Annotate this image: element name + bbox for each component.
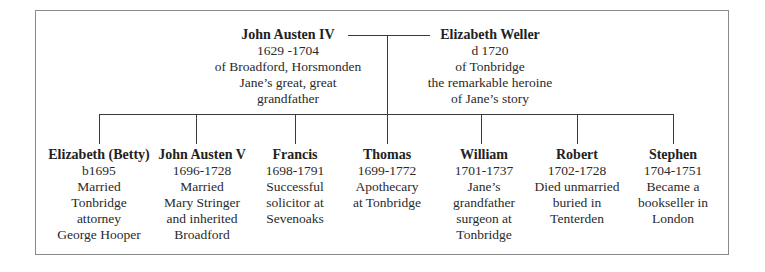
person-name: Thomas bbox=[353, 147, 421, 163]
person-detail: Successful bbox=[266, 179, 325, 195]
person-detail: George Hooper bbox=[48, 227, 149, 243]
person-detail: grandfather bbox=[215, 91, 362, 107]
person-detail: of Tonbridge bbox=[428, 59, 552, 75]
person-name: Francis bbox=[266, 147, 325, 163]
person-detail: grandfather bbox=[453, 195, 515, 211]
child-node-francis: Francis 1698-1791 Successful solicitor a… bbox=[266, 147, 325, 227]
child-node-john-austen-v: John Austen V 1696-1728 Married Mary Str… bbox=[158, 147, 246, 243]
person-detail: attorney bbox=[48, 211, 149, 227]
person-detail: surgeon at bbox=[453, 211, 515, 227]
person-detail: b1695 bbox=[48, 163, 149, 179]
person-detail: Jane’s bbox=[453, 179, 515, 195]
person-detail: bookseller in bbox=[638, 195, 708, 211]
person-detail: d 1720 bbox=[428, 43, 552, 59]
child-drop-line bbox=[387, 114, 388, 144]
person-detail: Mary Stringer bbox=[158, 195, 246, 211]
person-detail: the remarkable heroine bbox=[428, 75, 552, 91]
person-name: Elizabeth Weller bbox=[428, 27, 552, 43]
child-drop-line bbox=[295, 114, 296, 144]
person-detail: 1699-1772 bbox=[353, 163, 421, 179]
person-name: John Austen IV bbox=[215, 27, 362, 43]
parent-node-father: John Austen IV 1629 -1704 of Broadford, … bbox=[215, 27, 362, 107]
person-detail: Became a bbox=[638, 179, 708, 195]
person-detail: buried in bbox=[534, 195, 619, 211]
person-detail: Tenterden bbox=[534, 211, 619, 227]
person-detail: of Broadford, Horsmonden bbox=[215, 59, 362, 75]
person-detail: Sevenoaks bbox=[266, 211, 325, 227]
child-drop-line bbox=[196, 114, 197, 144]
person-detail: of Jane’s story bbox=[428, 91, 552, 107]
parent-node-mother: Elizabeth Weller d 1720 of Tonbridge the… bbox=[428, 27, 552, 107]
child-node-betty: Elizabeth (Betty) b1695 Married Tonbridg… bbox=[48, 147, 149, 243]
person-name: Robert bbox=[534, 147, 619, 163]
person-detail: 1629 -1704 bbox=[215, 43, 362, 59]
person-detail: Married bbox=[48, 179, 149, 195]
person-detail: 1702-1728 bbox=[534, 163, 619, 179]
person-detail: London bbox=[638, 211, 708, 227]
descent-trunk-line bbox=[387, 35, 388, 115]
person-name: Stephen bbox=[638, 147, 708, 163]
child-drop-line bbox=[99, 114, 100, 144]
child-node-stephen: Stephen 1704-1751 Became a bookseller in… bbox=[638, 147, 708, 227]
person-name: John Austen V bbox=[158, 147, 246, 163]
child-drop-line bbox=[673, 114, 674, 144]
person-detail: 1701-1737 bbox=[453, 163, 515, 179]
person-detail: Died unmarried bbox=[534, 179, 619, 195]
person-detail: Broadford bbox=[158, 227, 246, 243]
person-detail: and inherited bbox=[158, 211, 246, 227]
person-name: Elizabeth (Betty) bbox=[48, 147, 149, 163]
person-detail: Married bbox=[158, 179, 246, 195]
person-detail: at Tonbridge bbox=[353, 195, 421, 211]
person-detail: 1698-1791 bbox=[266, 163, 325, 179]
person-detail: 1704-1751 bbox=[638, 163, 708, 179]
person-detail: Jane’s great, great bbox=[215, 75, 362, 91]
child-node-thomas: Thomas 1699-1772 Apothecary at Tonbridge bbox=[353, 147, 421, 211]
child-node-robert: Robert 1702-1728 Died unmarried buried i… bbox=[534, 147, 619, 227]
child-node-william: William 1701-1737 Jane’s grandfather sur… bbox=[453, 147, 515, 243]
person-detail: Apothecary bbox=[353, 179, 421, 195]
person-detail: Tonbridge bbox=[48, 195, 149, 211]
child-drop-line bbox=[481, 114, 482, 144]
child-drop-line bbox=[577, 114, 578, 144]
person-detail: solicitor at bbox=[266, 195, 325, 211]
person-detail: Tonbridge bbox=[453, 227, 515, 243]
person-detail: 1696-1728 bbox=[158, 163, 246, 179]
person-name: William bbox=[453, 147, 515, 163]
